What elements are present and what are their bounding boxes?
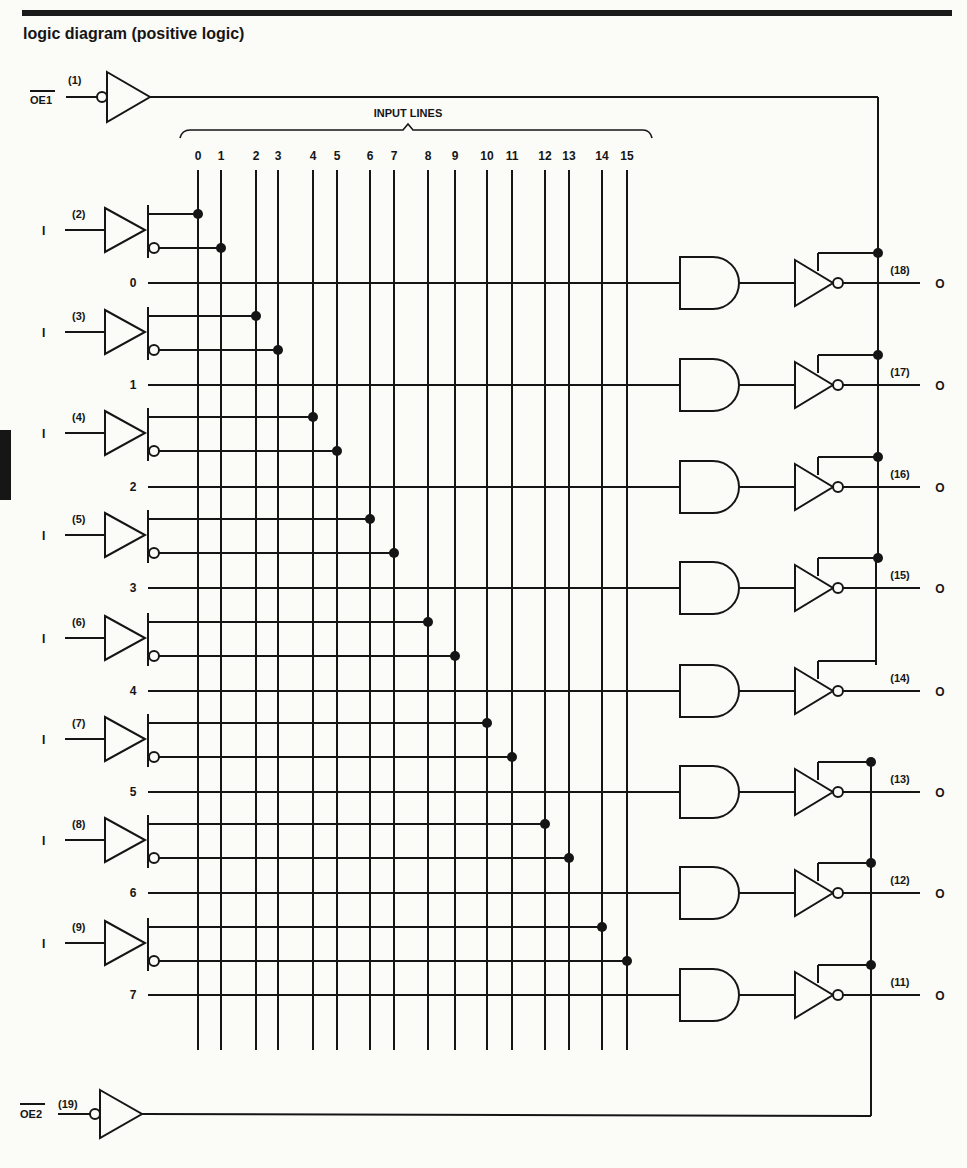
inversion-bubble [833,990,843,1000]
input-pin: (2) [72,208,86,220]
output-pin: (18) [890,264,910,276]
output-buffer [795,668,833,714]
junction-dot [251,311,261,321]
input-label: I [42,733,45,747]
input-line-label: 12 [538,149,552,163]
input-line-label: 14 [595,149,609,163]
and-gate [680,867,739,919]
inversion-bubble [833,278,843,288]
output-buffer [795,769,833,815]
input-pin: (4) [72,411,86,423]
input-line-label: 8 [425,149,432,163]
and-gate [680,969,739,1021]
output-pin: (12) [890,874,910,886]
oe2-enable-line [142,1114,871,1116]
input-lines-label: INPUT LINES [374,107,442,119]
junction-dot [873,553,883,563]
junction-dot [866,960,876,970]
oe1-buffer [107,72,150,122]
input-line-label: 3 [275,149,282,163]
junction-dot [873,248,883,258]
product-term-label: 4 [130,684,137,698]
input-buffer [105,717,145,761]
junction-dot [423,617,433,627]
input-pin: (6) [72,616,86,628]
junction-dot [193,209,203,219]
and-gate [680,359,739,411]
input-label: I [42,326,45,340]
inversion-bubble [149,853,159,863]
inversion-bubble [833,380,843,390]
inversion-bubble [149,956,159,966]
inversion-bubble [833,888,843,898]
and-gate [680,562,739,614]
junction-dot [873,350,883,360]
junction-dot [450,651,460,661]
output-pin: (11) [891,976,910,988]
input-lines-brace [180,124,652,138]
oe2-pin: (19) [58,1098,78,1110]
inversion-bubble [149,345,159,355]
inversion-bubble [149,446,159,456]
input-line-label: 11 [506,149,519,163]
output-buffer [795,972,833,1018]
input-buffer [105,310,145,354]
input-label: I [42,632,45,646]
input-line-label: 13 [562,149,576,163]
output-label: O [935,582,944,596]
product-term-label: 5 [130,785,137,799]
inversion-bubble [833,787,843,797]
oe2-buffer [100,1090,142,1138]
output-buffer [795,464,833,510]
inversion-bubble [90,1109,100,1119]
output-label: O [935,685,944,699]
output-label: O [935,481,944,495]
inversion-bubble [149,243,159,253]
oe2-label: OE2 [20,1108,42,1120]
output-pin: (14) [890,672,910,684]
junction-dot [564,853,574,863]
junction-dot [507,752,517,762]
and-gate [680,461,739,513]
logic-diagram: INPUT LINES0123456789101112131415OE1(1)O… [0,0,967,1168]
output-label: O [935,379,944,393]
input-label: I [42,224,45,238]
input-line-label: 6 [367,149,374,163]
input-pin: (3) [72,310,86,322]
input-buffer [105,616,145,660]
input-buffer [105,818,145,862]
junction-dot [540,819,550,829]
junction-dot [866,757,876,767]
input-line-label: 9 [452,149,459,163]
output-buffer [795,870,833,916]
product-term-label: 0 [130,276,137,290]
input-line-label: 10 [480,149,494,163]
output-buffer [795,565,833,611]
input-buffer [105,921,145,965]
inversion-bubble [833,482,843,492]
input-line-label: 1 [218,149,225,163]
input-line-label: 2 [253,149,260,163]
oe1-label: OE1 [30,94,52,106]
product-term-label: 1 [130,378,137,392]
input-line-label: 4 [310,149,317,163]
and-gate [680,665,739,717]
input-buffer [105,208,145,252]
product-term-label: 2 [130,480,137,494]
product-term-label: 3 [130,581,137,595]
input-label: I [42,834,45,848]
output-label: O [935,786,944,800]
output-buffer [795,260,833,306]
inversion-bubble [149,548,159,558]
junction-dot [365,514,375,524]
input-pin: (7) [72,717,86,729]
junction-dot [866,858,876,868]
output-label: O [935,277,944,291]
input-label: I [42,937,45,951]
junction-dot [273,345,283,355]
output-pin: (13) [890,773,910,785]
output-label: O [935,989,944,1003]
input-label: I [42,529,45,543]
oe1-pin: (1) [68,74,82,86]
product-term-label: 6 [130,886,137,900]
